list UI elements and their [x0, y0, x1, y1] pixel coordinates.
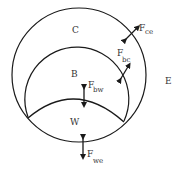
force-bw-subscript: bw [93, 86, 103, 94]
force-diagram: C B W E F ce F bc F bw F we [0, 0, 181, 174]
label-b: B [71, 69, 78, 79]
label-w: W [70, 117, 80, 127]
force-we-subscript: we [93, 157, 103, 165]
label-c: C [72, 25, 79, 35]
region-b-boundary [25, 47, 129, 121]
force-ce-subscript: ce [145, 28, 153, 36]
label-e: E [165, 76, 172, 86]
force-bc-subscript: bc [122, 56, 130, 64]
